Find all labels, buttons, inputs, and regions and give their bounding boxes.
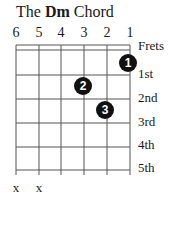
fret-label-1st: 1st — [138, 66, 153, 82]
fret-label-4th: 4th — [138, 137, 155, 153]
muted-string-5-icon: x — [33, 180, 45, 196]
finger-dot-1: 1 — [119, 54, 137, 72]
finger-dot-3: 3 — [96, 101, 114, 119]
fret-label-2nd: 2nd — [138, 90, 158, 106]
frets-header-label: Frets — [138, 38, 164, 54]
fret-label-3rd: 3rd — [138, 114, 155, 130]
fret-label-5th: 5th — [138, 160, 155, 176]
finger-dot-2: 2 — [74, 77, 92, 95]
muted-string-6-icon: x — [10, 180, 22, 196]
